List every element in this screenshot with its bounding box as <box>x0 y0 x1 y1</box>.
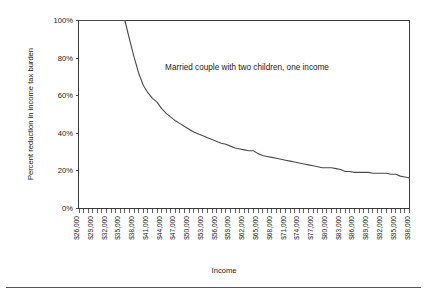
y-tick-label: 80% <box>58 54 73 63</box>
x-tick-label: $35,000 <box>114 216 121 240</box>
x-tick-label: $89,000 <box>362 216 369 240</box>
y-tick-label: 20% <box>58 166 73 175</box>
x-tick-label: $44,000 <box>156 216 163 240</box>
chart-annotation: Married couple with two children, one in… <box>165 63 329 72</box>
line-chart: 0%20%40%60%80%100% $26,000$29,000$32,000… <box>0 0 427 297</box>
x-tick-label: $38,000 <box>128 216 135 240</box>
x-tick-label: $26,000 <box>73 216 80 240</box>
x-tick-label: $53,000 <box>197 216 204 240</box>
x-tick-label: $56,000 <box>211 216 218 240</box>
x-tick-label: $65,000 <box>252 216 259 240</box>
x-tick-label: $74,000 <box>293 216 300 240</box>
x-axis-title: Income <box>212 266 237 275</box>
x-tick-label: $41,000 <box>142 216 149 240</box>
x-tick-label: $86,000 <box>348 216 355 240</box>
x-tick-label: $95,000 <box>390 216 397 240</box>
x-tick-label: $83,000 <box>335 216 342 240</box>
chart-background <box>0 0 427 297</box>
x-tick-label: $29,000 <box>87 216 94 240</box>
y-axis-title: Percent reduction in income tax burden <box>26 48 35 180</box>
y-tick-label: 0% <box>62 204 73 213</box>
y-tick-label: 60% <box>58 91 73 100</box>
y-tick-label: 40% <box>58 129 73 138</box>
x-tick-label: $50,000 <box>183 216 190 240</box>
x-tick-label: $62,000 <box>238 216 245 240</box>
y-tick-label: 100% <box>54 16 74 25</box>
x-tick-label: $80,000 <box>321 216 328 240</box>
x-tick-label: $92,000 <box>376 216 383 240</box>
chart-figure: 0%20%40%60%80%100% $26,000$29,000$32,000… <box>0 0 427 297</box>
x-tick-label: $98,000 <box>404 216 411 240</box>
x-tick-label: $71,000 <box>280 216 287 240</box>
x-tick-label: $59,000 <box>224 216 231 240</box>
x-tick-label: $77,000 <box>307 216 314 240</box>
x-tick-label: $68,000 <box>266 216 273 240</box>
x-tick-label: $32,000 <box>101 216 108 240</box>
x-tick-label: $47,000 <box>169 216 176 240</box>
